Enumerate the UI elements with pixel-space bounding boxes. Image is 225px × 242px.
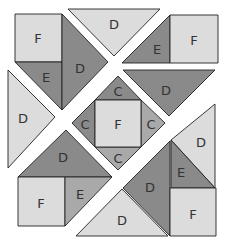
piece-label: F — [190, 33, 197, 48]
piece-label: C — [80, 117, 89, 132]
piece-label: D — [18, 111, 28, 126]
piece-f-top-right: F — [170, 15, 218, 63]
piece-label: D — [161, 83, 171, 98]
piece-label: F — [34, 31, 41, 46]
piece-label: E — [42, 70, 50, 85]
quilt-block-canvas: FEDDEFDDCCCCFDFEDEDFD — [0, 0, 225, 242]
piece-label: E — [76, 187, 84, 202]
piece-label: D — [58, 150, 68, 165]
piece-label: D — [109, 17, 119, 32]
piece-label: C — [146, 117, 155, 132]
piece-f-bottom-right: F — [170, 188, 216, 236]
piece-label: F — [37, 196, 44, 211]
piece-label: E — [153, 42, 161, 57]
piece-label: F — [114, 117, 121, 132]
piece-label: F — [189, 207, 196, 222]
piece-label: D — [75, 61, 85, 76]
piece-label: C — [113, 151, 122, 166]
piece-f-top-left: F — [15, 14, 62, 62]
piece-f-center: F — [95, 100, 141, 147]
piece-label: C — [113, 84, 122, 99]
piece-label: D — [117, 213, 127, 228]
piece-label: E — [177, 165, 185, 180]
piece-f-bottom-left: F — [18, 177, 65, 226]
piece-label: D — [145, 180, 155, 195]
piece-label: D — [196, 135, 206, 150]
quilt-block-diagram: FEDDEFDDCCCCFDFEDEDFD — [0, 0, 225, 242]
